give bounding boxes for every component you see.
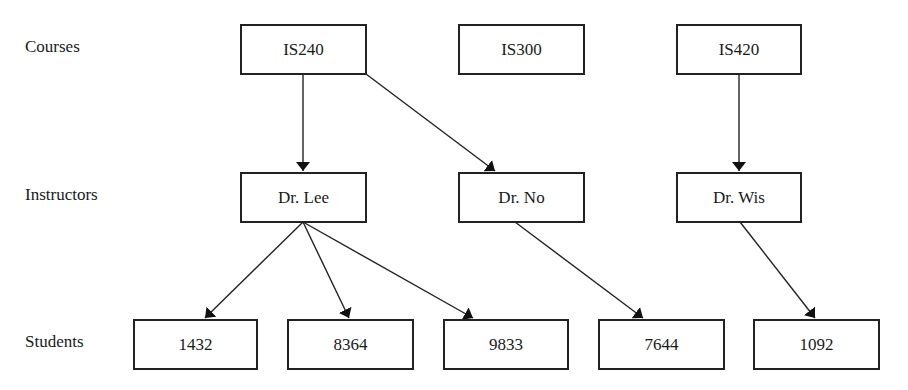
student-node-8364: 8364 xyxy=(287,319,414,370)
student-node-1092: 1092 xyxy=(753,319,880,370)
student-node-1432: 1432 xyxy=(133,319,258,370)
row-label-instructors: Instructors xyxy=(25,185,98,205)
row-label-courses: Courses xyxy=(25,37,80,57)
student-node-9833: 9833 xyxy=(443,319,569,370)
course-node-is240: IS240 xyxy=(240,24,367,75)
instructor-node-no: Dr. No xyxy=(458,172,585,223)
course-node-is300: IS300 xyxy=(458,24,585,75)
edge-wis-1092 xyxy=(740,222,815,318)
course-node-is420: IS420 xyxy=(676,24,802,75)
edge-lee-9833 xyxy=(303,222,473,318)
edge-lee-1432 xyxy=(205,222,303,318)
instructor-node-wis: Dr. Wis xyxy=(676,172,802,223)
row-label-students: Students xyxy=(25,332,84,352)
instructor-node-lee: Dr. Lee xyxy=(240,172,367,223)
edge-no-7644 xyxy=(515,222,643,318)
edge-lee-8364 xyxy=(303,222,349,318)
student-node-7644: 7644 xyxy=(598,319,725,370)
hierarchy-diagram: Courses Instructors Students IS240 IS300… xyxy=(0,0,908,390)
edge-is240-no xyxy=(366,74,495,171)
